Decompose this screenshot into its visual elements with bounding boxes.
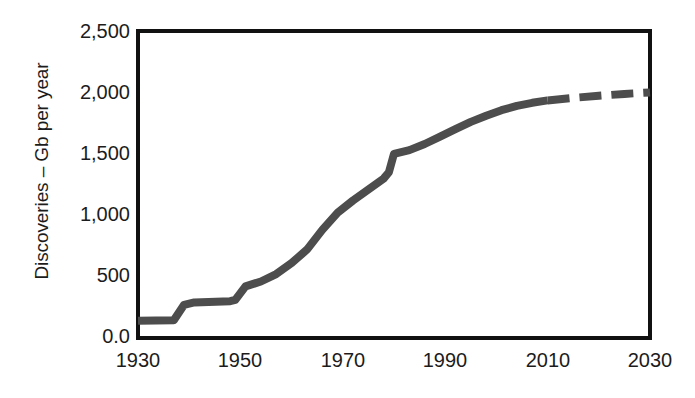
plot-area bbox=[0, 0, 695, 398]
data-line-historic bbox=[138, 100, 548, 320]
plot-frame bbox=[138, 31, 650, 338]
data-line-projected bbox=[548, 92, 650, 100]
chart-container: Discoveries – Gb per year 2,500 2,000 1,… bbox=[0, 0, 695, 398]
